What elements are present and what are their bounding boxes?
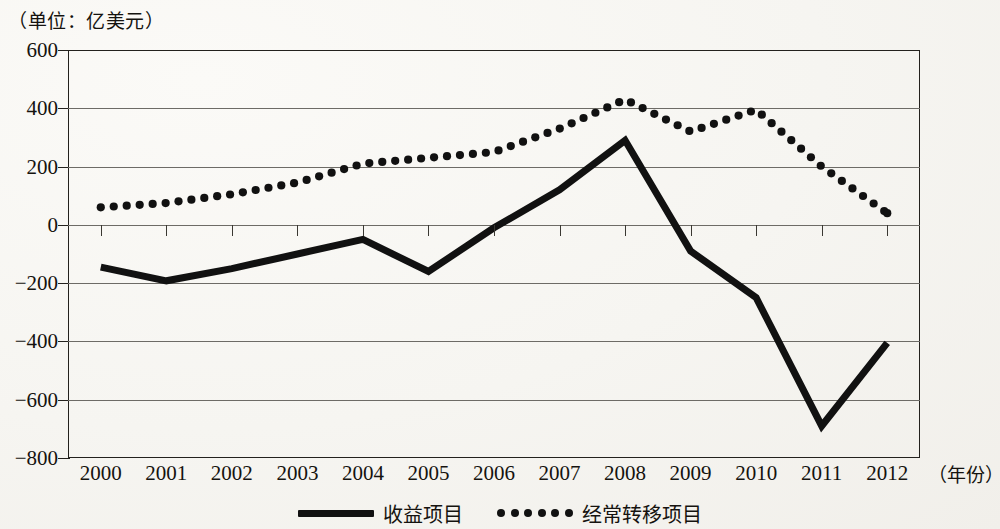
y-axis-tick-label: 400 xyxy=(27,96,59,121)
x-axis-tick-label: 2006 xyxy=(473,461,515,486)
chart-series-canvas xyxy=(68,50,920,458)
x-axis-labels: 2000200120022003200420052006200720082009… xyxy=(68,461,920,491)
x-axis-tick-label: 2012 xyxy=(866,461,908,486)
x-axis-tick-mark xyxy=(232,225,233,236)
y-axis-tick-label: 0 xyxy=(48,212,59,237)
series-line-income xyxy=(101,140,887,426)
legend-item-income: 收益项目 xyxy=(298,499,463,528)
x-axis-tick-mark xyxy=(428,225,429,236)
y-axis-tick-label: −600 xyxy=(15,387,58,412)
x-axis-tick-mark xyxy=(297,225,298,236)
y-axis-tick-label: −400 xyxy=(15,329,58,354)
legend-item-current-transfers: 经常转移项目 xyxy=(497,499,702,528)
x-axis-tick-label: 2004 xyxy=(342,461,384,486)
legend-label-current-transfers: 经常转移项目 xyxy=(582,499,702,528)
x-axis-tick-label: 2003 xyxy=(276,461,318,486)
unit-caption: （单位：亿美元） xyxy=(8,6,164,33)
x-axis-tick-label: 2005 xyxy=(407,461,449,486)
x-axis-tick-mark xyxy=(166,225,167,236)
x-axis-ticks xyxy=(68,225,920,236)
x-axis-tick-label: 2000 xyxy=(80,461,122,486)
y-axis-labels: 6004002000−200−400−600−800 xyxy=(0,50,58,458)
x-axis-tick-mark xyxy=(887,225,888,236)
x-axis-tick-mark xyxy=(560,225,561,236)
x-axis-tick-label: 2009 xyxy=(670,461,712,486)
y-axis-tick-label: 200 xyxy=(27,154,59,179)
series-dots-current-transfers xyxy=(97,98,892,217)
x-axis-tick-label: 2007 xyxy=(539,461,581,486)
x-axis-tick-label: 2010 xyxy=(735,461,777,486)
x-axis-tick-mark xyxy=(494,225,495,236)
x-axis-title: （年份） xyxy=(928,460,1000,487)
y-axis-tick-label: −200 xyxy=(15,271,58,296)
x-axis-tick-mark xyxy=(625,225,626,236)
chart-legend: 收益项目 经常转移项目 xyxy=(0,498,1000,528)
legend-label-income: 收益项目 xyxy=(383,499,463,528)
y-axis-tick-mark xyxy=(58,458,70,459)
x-axis-tick-mark xyxy=(363,225,364,236)
x-axis-tick-mark xyxy=(756,225,757,236)
x-axis-tick-label: 2001 xyxy=(145,461,187,486)
y-axis-tick-label: −800 xyxy=(15,446,58,471)
y-axis-tick-label: 600 xyxy=(27,38,59,63)
plot-area xyxy=(68,50,920,458)
x-axis-tick-label: 2011 xyxy=(801,461,842,486)
line-chart-figure: （单位：亿美元） 6004002000−200−400−600−800 2000… xyxy=(0,0,1000,529)
x-axis-tick-mark xyxy=(691,225,692,236)
x-axis-tick-mark xyxy=(101,225,102,236)
x-axis-tick-label: 2008 xyxy=(604,461,646,486)
x-axis-tick-mark xyxy=(822,225,823,236)
legend-dotted-line-icon xyxy=(497,509,573,518)
legend-solid-line-icon xyxy=(298,510,374,517)
x-axis-tick-label: 2002 xyxy=(211,461,253,486)
